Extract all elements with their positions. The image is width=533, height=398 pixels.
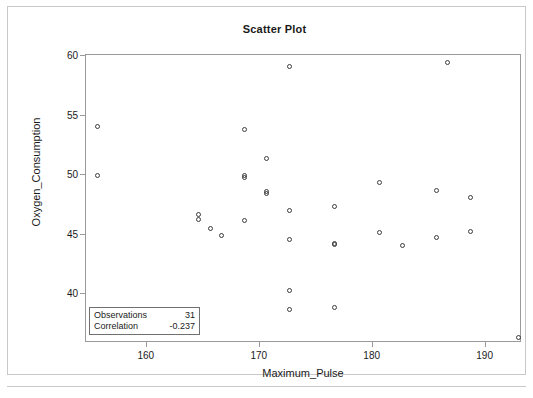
data-point — [377, 230, 382, 235]
data-point — [95, 173, 100, 178]
y-tick-label: 50 — [52, 169, 78, 180]
data-point — [264, 156, 269, 161]
data-point — [287, 64, 292, 69]
data-point — [287, 307, 292, 312]
x-tick-mark — [485, 342, 486, 347]
data-point — [287, 208, 292, 213]
chart-page: Scatter Plot Oxygen_Consumption Maximum_… — [0, 0, 533, 398]
y-tick-mark — [80, 115, 85, 116]
data-point — [468, 195, 473, 200]
chart-title: Scatter Plot — [8, 23, 533, 35]
y-tick-label: 60 — [52, 50, 78, 61]
x-tick-mark — [146, 342, 147, 347]
stats-row-observations: Observations 31 — [94, 310, 195, 321]
data-point — [377, 180, 382, 185]
data-point — [219, 233, 224, 238]
bottom-divider — [7, 386, 526, 387]
data-point — [516, 335, 521, 340]
data-point — [434, 235, 439, 240]
y-tick-mark — [80, 174, 85, 175]
y-tick-label: 40 — [52, 288, 78, 299]
data-point — [242, 175, 247, 180]
correlation-value: -0.237 — [161, 321, 195, 332]
x-axis-title: Maximum_Pulse — [85, 367, 521, 379]
x-tick-label: 190 — [465, 350, 505, 361]
data-point — [196, 217, 201, 222]
plot-area — [86, 55, 520, 341]
data-point — [95, 124, 100, 129]
data-point — [242, 127, 247, 132]
data-point — [468, 229, 473, 234]
observations-label: Observations — [94, 310, 161, 321]
y-tick-mark — [80, 293, 85, 294]
data-point — [242, 218, 247, 223]
data-point — [400, 243, 405, 248]
data-point — [434, 188, 439, 193]
y-tick-mark — [80, 55, 85, 56]
y-tick-label: 45 — [52, 228, 78, 239]
data-point — [332, 242, 337, 247]
data-point — [332, 204, 337, 209]
x-tick-label: 160 — [126, 350, 166, 361]
plot-frame — [85, 54, 521, 342]
data-point — [287, 237, 292, 242]
chart-panel: Scatter Plot Oxygen_Consumption Maximum_… — [7, 6, 526, 375]
y-tick-label: 55 — [52, 109, 78, 120]
observations-value: 31 — [161, 310, 195, 321]
data-point — [445, 60, 450, 65]
data-point — [287, 288, 292, 293]
x-tick-label: 180 — [352, 350, 392, 361]
data-point — [208, 226, 213, 231]
x-tick-label: 170 — [239, 350, 279, 361]
stats-row-correlation: Correlation -0.237 — [94, 321, 195, 332]
x-tick-mark — [259, 342, 260, 347]
x-tick-mark — [372, 342, 373, 347]
y-tick-mark — [80, 234, 85, 235]
correlation-label: Correlation — [94, 321, 152, 332]
y-axis-title: Oxygen_Consumption — [30, 82, 42, 262]
stats-box: Observations 31 Correlation -0.237 — [89, 307, 200, 335]
data-point — [332, 305, 337, 310]
data-point — [264, 191, 269, 196]
